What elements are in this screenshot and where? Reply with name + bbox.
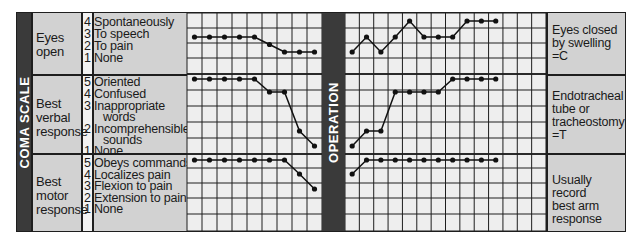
observation-grids xyxy=(0,0,640,243)
operation-label: OPERATION xyxy=(326,82,341,163)
note-verbal: Endotracheal tube or tracheostomy =T xyxy=(552,90,624,142)
note-motor: Usually record best arm response xyxy=(552,174,624,226)
note-line: Usually record xyxy=(552,174,624,200)
note-line: =C xyxy=(552,50,624,63)
note-line: response xyxy=(552,213,624,226)
operation-bar: OPERATION xyxy=(322,13,345,231)
note-line: =T xyxy=(552,129,624,142)
note-eyes: Eyes closed by swelling =C xyxy=(552,24,624,63)
divider xyxy=(546,12,548,232)
